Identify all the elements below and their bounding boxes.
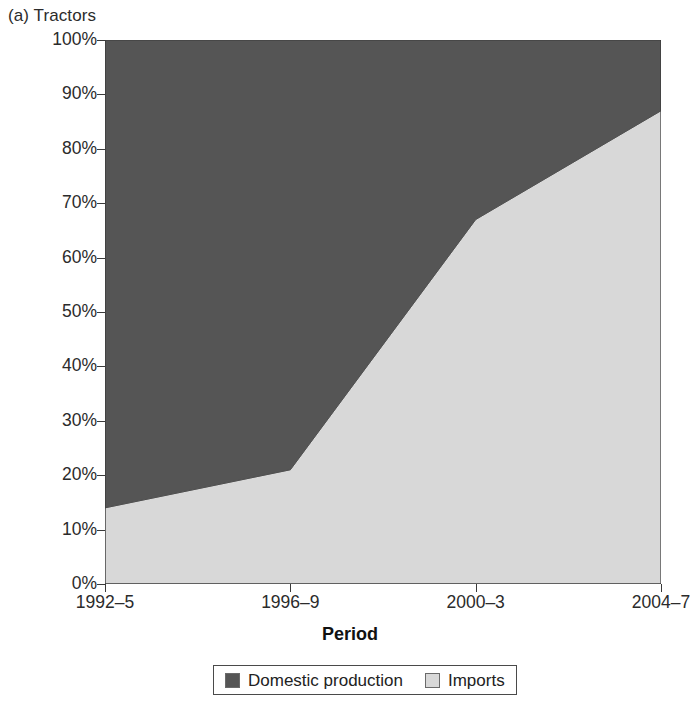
y-tick-label: 100% (11, 29, 97, 50)
y-tick-mark (97, 366, 105, 367)
y-tick-label: 50% (11, 301, 97, 322)
y-tick-label: 20% (11, 464, 97, 485)
y-tick-label: 30% (11, 410, 97, 431)
y-tick-mark (97, 584, 105, 585)
y-tick-label: 10% (11, 519, 97, 540)
y-tick-mark (97, 203, 105, 204)
x-tick-mark (661, 584, 662, 592)
y-tick-label: 70% (11, 192, 97, 213)
x-axis-tick-labels: 1992–51996–92000–32004–7 (0, 592, 700, 622)
y-tick-mark (97, 475, 105, 476)
y-tick-mark (97, 258, 105, 259)
legend-label: Domestic production (248, 672, 403, 689)
y-tick-mark (97, 312, 105, 313)
y-tick-mark (97, 421, 105, 422)
domestic-swatch (225, 673, 240, 688)
x-tick-mark (105, 584, 106, 592)
plot-area (105, 40, 661, 584)
y-tick-mark (97, 40, 105, 41)
y-tick-label: 80% (11, 138, 97, 159)
y-tick-mark (97, 149, 105, 150)
x-tick-mark (290, 584, 291, 592)
chart-legend: Domestic productionImports (213, 665, 517, 695)
chart-figure: (a) Tractors 0%10%20%30%40%50%60%70%80%9… (0, 0, 700, 712)
x-tick-label: 1992–5 (35, 592, 175, 613)
x-tick-label: 2000–3 (406, 592, 546, 613)
legend-entry: Domestic production (225, 672, 403, 689)
imports-swatch (425, 673, 440, 688)
y-tick-mark (97, 530, 105, 531)
x-tick-label: 2004–7 (591, 592, 700, 613)
legend-entry: Imports (425, 672, 505, 689)
stacked-area-plot (105, 40, 661, 584)
x-tick-mark (476, 584, 477, 592)
y-tick-label: 0% (11, 573, 97, 594)
x-axis-title: Period (0, 624, 700, 645)
x-tick-label: 1996–9 (220, 592, 360, 613)
y-tick-label: 40% (11, 355, 97, 376)
legend-label: Imports (448, 672, 505, 689)
y-tick-label: 60% (11, 247, 97, 268)
y-tick-label: 90% (11, 83, 97, 104)
y-tick-mark (97, 94, 105, 95)
